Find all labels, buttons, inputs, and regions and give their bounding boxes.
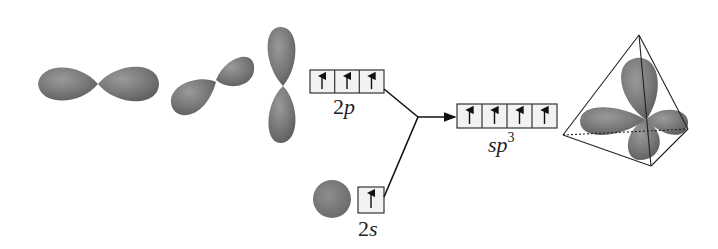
2s-energy-box xyxy=(358,187,384,213)
sp3-energy-box xyxy=(457,104,557,128)
sp3-hybridization-diagram: 2p 2s sp3 xyxy=(0,0,718,249)
pz-orbital xyxy=(268,27,296,143)
s-orbital xyxy=(313,180,351,218)
px-orbital xyxy=(38,67,159,102)
tetrahedron-outline xyxy=(563,35,688,166)
sp3-label: sp3 xyxy=(488,130,515,157)
py-orbital xyxy=(171,57,254,115)
2p-energy-box xyxy=(310,70,384,93)
hybridization-connector xyxy=(384,89,455,197)
2s-label: 2s xyxy=(358,216,378,241)
2p-label: 2p xyxy=(333,94,355,119)
